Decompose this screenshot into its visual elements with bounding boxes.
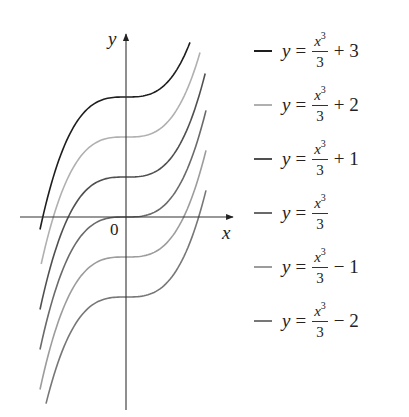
legend-line-swatch: [254, 320, 272, 322]
legend-y-symbol: y: [282, 256, 290, 278]
legend-equals: =: [295, 40, 306, 62]
legend-fraction: x33: [312, 194, 328, 232]
numerator-exponent: 3: [321, 246, 326, 257]
legend-constant: + 2: [334, 94, 359, 116]
legend-y-symbol: y: [282, 40, 290, 62]
legend-equals: =: [295, 94, 306, 116]
fraction-numerator: x3: [312, 194, 328, 214]
legend-line-swatch: [254, 158, 272, 160]
fraction-numerator: x3: [312, 302, 328, 322]
legend-fraction: x33: [312, 32, 328, 70]
legend-item: y=x33: [254, 193, 334, 233]
numerator-exponent: 3: [321, 300, 326, 311]
y-axis-label: y: [108, 28, 116, 50]
legend-equals: =: [295, 202, 306, 224]
legend-constant: + 3: [334, 40, 359, 62]
legend-constant: − 1: [334, 256, 359, 278]
origin-label: 0: [110, 220, 119, 240]
legend-y-symbol: y: [282, 148, 290, 170]
chart-legend: y=x33+ 3y=x33+ 2y=x33+ 1y=x33y=x33− 1y=x…: [254, 0, 409, 417]
legend-fraction: x33: [312, 140, 328, 178]
numerator-variable: x: [314, 87, 321, 103]
x-axis-label: x: [222, 222, 230, 244]
legend-constant: − 2: [334, 310, 359, 332]
fraction-denominator: 3: [316, 322, 324, 340]
numerator-variable: x: [314, 195, 321, 211]
fraction-numerator: x3: [312, 140, 328, 160]
legend-equals: =: [295, 310, 306, 332]
legend-item: y=x33+ 3: [254, 31, 359, 71]
numerator-variable: x: [314, 141, 321, 157]
fraction-numerator: x3: [312, 32, 328, 52]
curve-line: [40, 74, 205, 310]
numerator-exponent: 3: [321, 138, 326, 149]
legend-fraction: x33: [312, 248, 328, 286]
fraction-denominator: 3: [316, 214, 324, 232]
legend-item: y=x33+ 2: [254, 85, 359, 125]
legend-item: y=x33+ 1: [254, 139, 359, 179]
legend-y-symbol: y: [282, 310, 290, 332]
fraction-denominator: 3: [316, 160, 324, 178]
curve-line: [41, 53, 200, 264]
legend-line-swatch: [254, 212, 272, 214]
fraction-denominator: 3: [316, 106, 324, 124]
legend-line-swatch: [254, 266, 272, 268]
numerator-exponent: 3: [321, 192, 326, 203]
legend-line-swatch: [254, 104, 272, 106]
curve-group: [40, 42, 206, 403]
numerator-variable: x: [314, 303, 321, 319]
legend-fraction: x33: [312, 86, 328, 124]
legend-equals: =: [295, 148, 306, 170]
legend-line-swatch: [254, 50, 272, 52]
numerator-exponent: 3: [321, 30, 326, 41]
numerator-variable: x: [314, 33, 321, 49]
fraction-denominator: 3: [316, 52, 324, 70]
fraction-numerator: x3: [312, 248, 328, 268]
legend-equals: =: [295, 256, 306, 278]
legend-y-symbol: y: [282, 94, 290, 116]
legend-fraction: x33: [312, 302, 328, 340]
numerator-exponent: 3: [321, 84, 326, 95]
legend-y-symbol: y: [282, 202, 290, 224]
fraction-denominator: 3: [316, 268, 324, 286]
legend-item: y=x33− 1: [254, 247, 359, 287]
fraction-numerator: x3: [312, 86, 328, 106]
numerator-variable: x: [314, 249, 321, 265]
legend-item: y=x33− 2: [254, 301, 359, 341]
legend-constant: + 1: [334, 148, 359, 170]
